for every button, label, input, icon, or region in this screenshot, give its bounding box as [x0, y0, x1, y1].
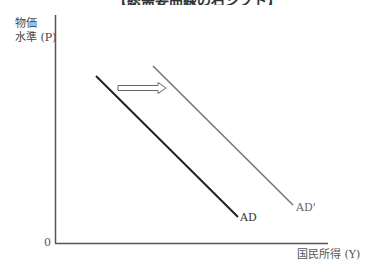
diagram-plot	[0, 0, 365, 263]
ad-prime-curve	[153, 66, 293, 205]
ad-curve	[96, 76, 238, 217]
ad-prime-curve-label: AD'	[296, 201, 316, 214]
shift-arrow-icon	[118, 83, 166, 94]
ad-curve-label: AD	[240, 211, 257, 224]
origin-label: 0	[44, 236, 51, 249]
x-axis-label: 国民所得 (Y)	[297, 245, 360, 261]
